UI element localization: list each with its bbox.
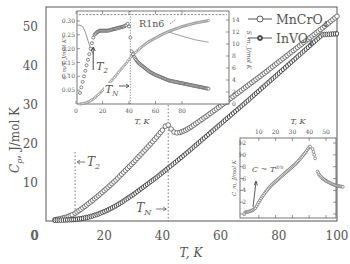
inset1-x-axis-label: T, K bbox=[134, 117, 150, 126]
inset1-cm-point bbox=[84, 69, 87, 72]
y-axis-label: Cp, J/mol K bbox=[8, 106, 24, 173]
chart-container: 02040608010001020304050T, KCp, J/mol KT2… bbox=[0, 0, 350, 264]
x-tick-label: 60 bbox=[213, 229, 228, 243]
inset1-cm-point bbox=[88, 53, 91, 56]
inset1-x-tick-label: 40 bbox=[125, 107, 133, 114]
arrow-left-icon bbox=[77, 160, 85, 164]
t2-label: T2 bbox=[87, 155, 100, 171]
y-tick-label: 10 bbox=[23, 176, 38, 190]
inset1-x-tick-label: 0 bbox=[74, 107, 78, 114]
inset1-cm-point bbox=[78, 91, 81, 94]
data-point bbox=[335, 32, 338, 37]
inset1-cm-point bbox=[128, 25, 131, 28]
inset2-x-tick-label: 50 bbox=[322, 128, 330, 135]
y-tick-label: 40 bbox=[23, 59, 38, 73]
x-tick-label: 100 bbox=[326, 229, 349, 243]
inset1-cm-point bbox=[90, 42, 93, 45]
x-tick-label: 40 bbox=[155, 229, 170, 243]
inset1-x-tick-label: 20 bbox=[99, 107, 107, 114]
inset2-x-tick-label: 20 bbox=[272, 128, 280, 135]
inset-lower-right: 1020304050024681012T, KC_m, J/mol KC ~ T… bbox=[231, 117, 344, 218]
inset2-cm-point bbox=[312, 150, 315, 153]
inset2-cm-point bbox=[311, 148, 314, 151]
inset1-y-right-tick-label: 6 bbox=[232, 64, 236, 71]
legend-marker-invo4-center bbox=[259, 37, 261, 39]
inset1-y-right-tick-label: 2 bbox=[232, 88, 236, 95]
inset1-y-right-tick-label: 10 bbox=[232, 40, 240, 47]
inset2-cm-point bbox=[313, 153, 316, 156]
tn-label: TN bbox=[136, 201, 152, 217]
inset1-y-right-tick-label: 0 bbox=[232, 100, 236, 107]
x-axis-label: T, K bbox=[180, 246, 204, 260]
inset2-y-tick-label: 10 bbox=[238, 151, 246, 158]
inset1-y-right-tick-label: 4 bbox=[232, 76, 236, 83]
inset2-y-tick-label: 6 bbox=[242, 175, 246, 182]
legend-marker-mncro4 bbox=[257, 16, 263, 22]
inset1-y-right-tick-label: 8 bbox=[232, 52, 236, 59]
inset1-y-tick-label: 0.05 bbox=[62, 86, 76, 93]
inset2-cm-point bbox=[314, 157, 317, 160]
inset2-cm-point bbox=[309, 145, 312, 148]
inset1-cm-point bbox=[82, 75, 85, 78]
inset1-cm-point bbox=[85, 64, 88, 67]
inset1-x-tick-label: 60 bbox=[152, 107, 160, 114]
inset2-y-tick-label: 4 bbox=[242, 186, 246, 193]
x-tick-label: 20 bbox=[97, 229, 112, 243]
y-tick-label: 50 bbox=[23, 20, 38, 34]
inset1-y-right-tick-label: 12 bbox=[232, 28, 240, 35]
inset1-y-right-axis-label: S_m, J/mol K bbox=[245, 31, 253, 70]
legend-label-mncro4: MnCrO4 bbox=[276, 12, 328, 29]
inset-upper-left: 0204060800.050.100.150.200.250.300246810… bbox=[61, 11, 253, 126]
inset2-x-tick-label: 30 bbox=[289, 128, 297, 135]
inset1-cm-point bbox=[86, 58, 89, 61]
y-tick-label: 20 bbox=[23, 137, 38, 151]
y-tick-label: 30 bbox=[23, 98, 38, 112]
inset2-cm-point bbox=[341, 185, 344, 188]
inset1-cm-point bbox=[81, 80, 84, 83]
inset2-y-tick-label: 8 bbox=[242, 163, 246, 170]
inset2-x-tick-label: 10 bbox=[255, 128, 263, 135]
legend-label-invo4: InVO4 bbox=[276, 31, 313, 48]
data-point bbox=[335, 14, 340, 19]
inset2-y-tick-label: 2 bbox=[242, 198, 246, 205]
inset1-y-right-tick-label: 14 bbox=[232, 16, 240, 23]
inset2-x-axis-label: T, K bbox=[290, 117, 306, 126]
inset1-y-tick-label: 0.30 bbox=[62, 17, 76, 24]
inset1-cm-point bbox=[80, 86, 83, 89]
inset2-x-tick-label: 40 bbox=[305, 128, 313, 135]
inset2-y-tick-label: 12 bbox=[238, 139, 246, 146]
rln6-label: R1n6 bbox=[139, 18, 164, 29]
heat-capacity-chart: 02040608010001020304050T, KCp, J/mol KT2… bbox=[0, 0, 350, 264]
inset1-x-tick-label: 80 bbox=[178, 107, 186, 114]
inset2-y-axis-label: C_m, J/mol K bbox=[231, 159, 238, 196]
inset1-cm-point bbox=[129, 36, 132, 39]
y-tick-label: 0 bbox=[30, 229, 38, 243]
inset1-cm-point bbox=[207, 87, 210, 90]
inset1-y-axis-label: C_m/T, J/mol K² bbox=[61, 37, 68, 80]
arrow-right-icon bbox=[156, 207, 166, 211]
x-tick-label: 80 bbox=[271, 229, 286, 243]
inset1-entropy-point bbox=[207, 20, 209, 22]
